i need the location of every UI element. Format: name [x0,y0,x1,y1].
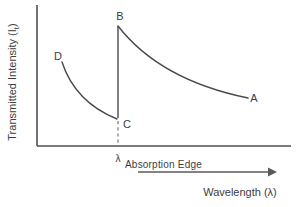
curve-d-to-c [62,62,117,119]
point-label-c: C [123,118,131,130]
wavelength-arrowhead-icon [268,168,277,177]
x-axis-label: Wavelength (λ) [203,186,277,198]
diagram-canvas: Transmitted Intensity (It) D B C A λ Abs… [0,0,306,207]
y-axis-label-suffix: ) [6,23,18,27]
point-label-d: D [54,50,62,62]
curve-b-to-a [118,26,248,98]
y-axis-label: Transmitted Intensity (It) [6,23,21,140]
absorption-edge-label: Absorption Edge [125,159,202,170]
point-label-b: B [116,10,123,22]
absorption-edge-diagram: Transmitted Intensity (It) D B C A λ Abs… [0,0,306,207]
lambda-label: λ [116,153,121,164]
y-axis-label-prefix: Transmitted Intensity (I [6,29,18,140]
point-label-a: A [250,92,258,104]
